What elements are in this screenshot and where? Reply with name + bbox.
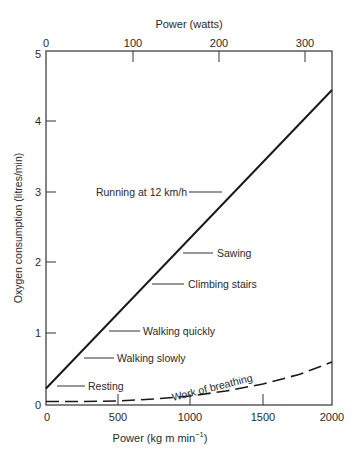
x-tick-label: 2000 [320,411,344,423]
oxygen-consumption-line [46,90,332,389]
plot-frame [46,51,332,405]
y-tick-label: 4 [35,115,41,127]
x-tick-label: 1500 [251,411,275,423]
top-axis-ticks: 0 100 200 300 [43,37,314,62]
x-tick-label: 500 [109,411,127,423]
label-walking-slowly: Walking slowly [117,352,186,364]
y-tick-label: 2 [35,256,41,268]
top-tick-label: 200 [210,37,228,49]
label-walking-quickly: Walking quickly [143,325,216,337]
y-tick-label: 1 [35,327,41,339]
y-tick-label: 0 [35,399,41,411]
x-tick-label: 1000 [178,411,202,423]
label-sawing: Sawing [217,247,252,259]
top-tick-label: 100 [124,37,142,49]
label-climbing-stairs: Climbing stairs [188,278,257,290]
x-tick-label: 0 [44,411,50,423]
label-work-of-breathing: Work of breathing [170,371,253,403]
label-running: Running at 12 km/h [96,186,187,198]
y-axis-title: Oxygen consumption (litres/min) [12,153,24,304]
label-resting: Resting [88,380,124,392]
y-tick-label: 5 [35,48,41,60]
top-axis-title: Power (watts) [155,18,222,30]
x-axis-ticks: 0 500 1000 1500 2000 [44,394,344,423]
top-tick-label: 0 [43,37,49,49]
oxygen-consumption-chart: Power (watts) 0 100 200 300 0 1 2 3 4 5 … [0,0,362,458]
x-axis-title: Power (kg m min−1) [113,430,208,444]
y-tick-label: 3 [35,186,41,198]
top-tick-label: 300 [296,37,314,49]
